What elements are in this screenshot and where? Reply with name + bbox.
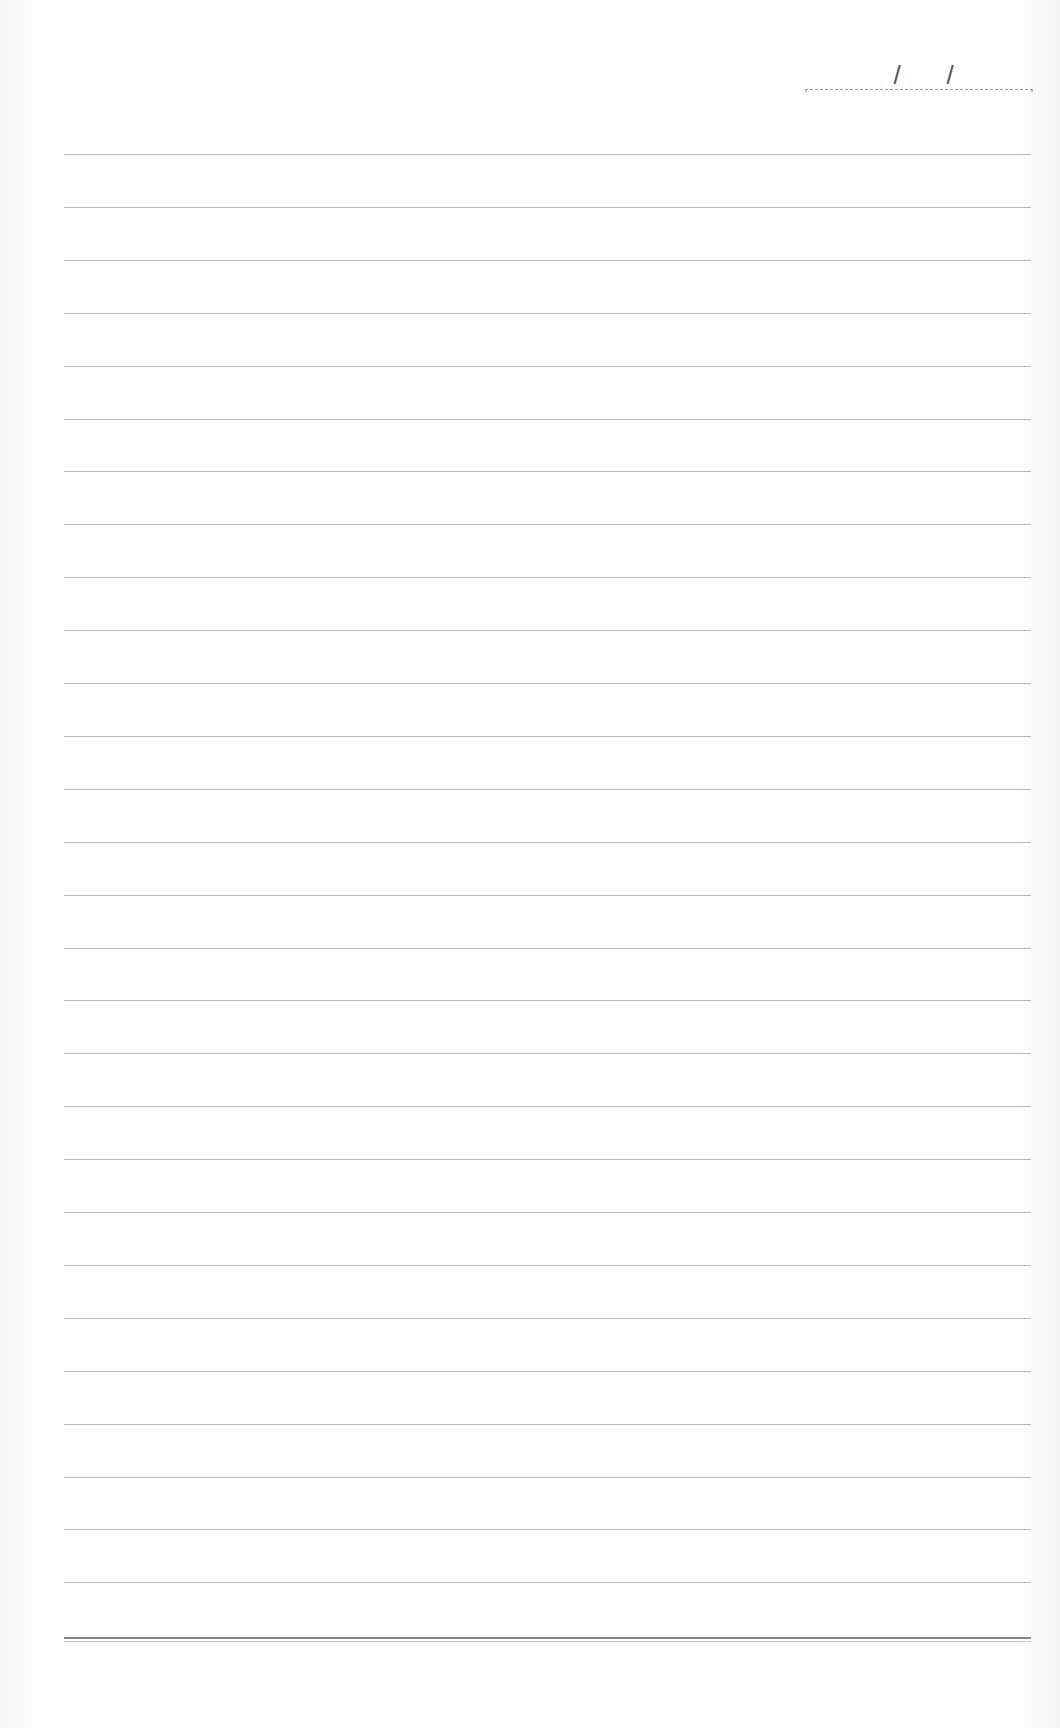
writing-line <box>64 366 1031 367</box>
writing-line <box>64 948 1031 949</box>
writing-line <box>64 1424 1031 1425</box>
writing-line <box>64 154 1031 155</box>
writing-line <box>64 524 1031 525</box>
writing-line <box>64 313 1031 314</box>
date-field-start-dot <box>805 90 807 92</box>
bottom-double-rule <box>64 1637 1031 1639</box>
writing-line <box>64 1265 1031 1266</box>
writing-line <box>64 736 1031 737</box>
writing-line <box>64 260 1031 261</box>
writing-line <box>64 630 1031 631</box>
date-underline <box>805 89 1033 90</box>
writing-line <box>64 577 1031 578</box>
writing-line <box>64 419 1031 420</box>
writing-line <box>64 1477 1031 1478</box>
date-field-end-dot <box>1031 90 1033 92</box>
writing-line <box>64 1106 1031 1107</box>
writing-line <box>64 895 1031 896</box>
writing-line <box>64 842 1031 843</box>
date-separator-2: / <box>940 60 960 90</box>
date-field[interactable]: / / <box>805 60 1033 94</box>
notebook-page: / / <box>0 0 1060 1728</box>
writing-line <box>64 683 1031 684</box>
writing-line <box>64 789 1031 790</box>
writing-line <box>64 1582 1031 1583</box>
writing-line <box>64 1159 1031 1160</box>
date-separator-1: / <box>887 60 907 90</box>
writing-line <box>64 207 1031 208</box>
writing-line <box>64 471 1031 472</box>
writing-line <box>64 1212 1031 1213</box>
writing-line <box>64 1318 1031 1319</box>
writing-line <box>64 1371 1031 1372</box>
writing-line <box>64 1000 1031 1001</box>
writing-line <box>64 1529 1031 1530</box>
writing-line <box>64 1053 1031 1054</box>
